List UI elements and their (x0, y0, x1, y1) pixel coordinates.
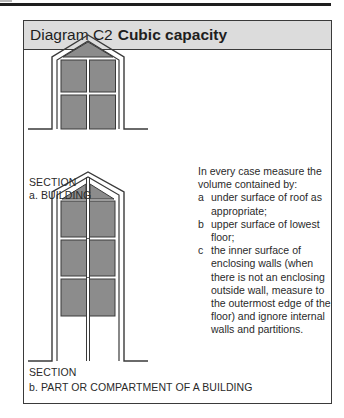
explanation-item-text: the inner surface of enclosing walls (wh… (211, 244, 331, 335)
section-a-caption: a. BUILDING (29, 189, 91, 201)
section-b-caption: b. PART OR COMPARTMENT OF A BUILDING (29, 381, 253, 393)
measurement-explanation: In every case measure the volume contain… (198, 165, 333, 337)
top-rule-faint (0, 0, 12, 2)
explanation-item-text: under surface of roof as appropriate; (211, 191, 322, 216)
section-b-section-label: SECTION (29, 366, 76, 378)
explanation-item-c: c the inner surface of enclosing walls (… (198, 244, 333, 336)
section-a-section-label: SECTION (29, 176, 76, 188)
explanation-intro: In every case measure the volume contain… (198, 165, 333, 191)
explanation-item-a: a under surface of roof as appropriate; (198, 191, 333, 217)
explanation-item-mark: c (198, 244, 203, 257)
explanation-item-b: b upper surface of lowest floor; (198, 218, 333, 244)
explanation-item-mark: a (198, 191, 204, 204)
page-top-rule (0, 3, 331, 6)
diagram-frame: Diagram C2Cubic capacity (23, 20, 332, 404)
explanation-item-text: upper surface of lowest floor; (211, 218, 320, 243)
explanation-item-mark: b (198, 218, 204, 231)
explanation-list: a under surface of roof as appropriate; … (198, 191, 333, 336)
section-a-building-drawing (28, 35, 148, 129)
